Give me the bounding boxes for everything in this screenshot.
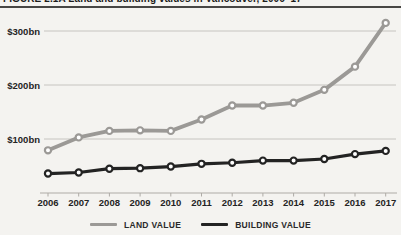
x-tick-label: 2008	[99, 197, 120, 208]
y-tick-label: $100bn	[7, 134, 40, 145]
legend-swatch	[90, 223, 117, 226]
data-point-building-value-2013	[260, 158, 266, 164]
series-line-land-value	[48, 23, 386, 150]
x-tick-label: 2017	[375, 197, 396, 208]
data-point-land-value-2017	[383, 20, 389, 26]
data-point-building-value-2015	[321, 156, 327, 162]
data-point-building-value-2010	[168, 163, 174, 169]
data-point-land-value-2013	[260, 102, 266, 108]
data-point-land-value-2006	[45, 147, 51, 153]
figure-2-1a: FIGURE 2.1A Land and building values in …	[0, 0, 401, 235]
data-point-land-value-2011	[198, 116, 204, 122]
legend-label: BUILDING VALUE	[235, 220, 311, 230]
series-line-building-value	[48, 151, 386, 174]
x-tick-label: 2010	[160, 197, 181, 208]
data-point-land-value-2016	[352, 64, 358, 70]
x-tick-label: 2011	[191, 197, 212, 208]
y-tick-label: $300bn	[7, 26, 40, 37]
data-point-land-value-2012	[229, 102, 235, 108]
data-point-building-value-2012	[229, 160, 235, 166]
data-point-building-value-2006	[45, 170, 51, 176]
x-tick-label: 2015	[314, 197, 336, 208]
data-point-land-value-2008	[106, 128, 112, 134]
data-point-building-value-2017	[383, 148, 389, 154]
data-point-building-value-2011	[198, 161, 204, 167]
x-tick-label: 2007	[68, 197, 89, 208]
legend-item: LAND VALUE	[90, 220, 181, 230]
data-point-building-value-2007	[76, 169, 82, 175]
data-point-land-value-2010	[168, 128, 174, 134]
data-point-land-value-2014	[291, 100, 297, 106]
x-tick-label: 2014	[283, 197, 305, 208]
chart-legend: LAND VALUEBUILDING VALUE	[0, 217, 401, 232]
data-point-building-value-2009	[137, 165, 143, 171]
x-tick-label: 2013	[252, 197, 273, 208]
y-tick-label: $200bn	[7, 80, 40, 91]
legend-item: BUILDING VALUE	[201, 220, 311, 230]
data-point-land-value-2009	[137, 127, 143, 133]
x-tick-label: 2006	[37, 197, 58, 208]
x-tick-label: 2009	[130, 197, 151, 208]
data-point-land-value-2015	[321, 87, 327, 93]
data-point-building-value-2008	[106, 166, 112, 172]
x-tick-label: 2012	[222, 197, 243, 208]
data-point-building-value-2014	[291, 158, 297, 164]
data-point-land-value-2007	[76, 134, 82, 140]
legend-swatch	[201, 223, 228, 226]
line-chart: $100bn$200bn$300bn2006200720082009201020…	[0, 0, 401, 235]
data-point-building-value-2016	[352, 151, 358, 157]
x-tick-label: 2016	[344, 197, 365, 208]
legend-label: LAND VALUE	[124, 220, 181, 230]
